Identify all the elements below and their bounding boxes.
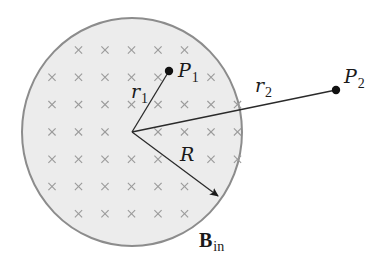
magnetic-field-diagram: P1 P2 r1 r2 R Bin <box>0 0 381 268</box>
point-p1-dot <box>165 67 173 75</box>
p2-label: P2 <box>343 65 365 91</box>
point-p2-dot <box>332 86 340 94</box>
r2-label: r2 <box>255 74 272 100</box>
b-field-label: Bin <box>199 229 224 254</box>
radius-label: R <box>179 143 194 165</box>
